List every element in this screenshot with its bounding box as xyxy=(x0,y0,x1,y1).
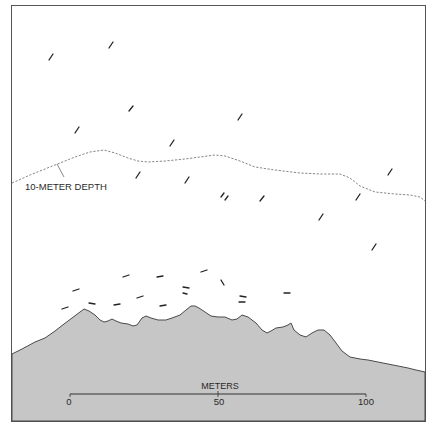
scale-label-50: 50 xyxy=(214,396,225,407)
scale-label-0: 0 xyxy=(66,396,71,407)
scale-label-100: 100 xyxy=(358,396,374,407)
depth-label: 10-METER DEPTH xyxy=(25,181,107,192)
scale-title: METERS xyxy=(201,381,239,391)
fish-distribution-diagram: 10-METER DEPTH xyxy=(0,0,433,429)
